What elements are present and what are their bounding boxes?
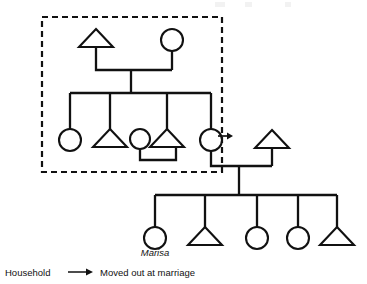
legend-household-label: Household	[5, 267, 50, 278]
symbol-female-g2-son-1-wife	[130, 129, 150, 149]
symbol-male-g2-daughter-2-husband	[255, 130, 289, 148]
symbol-male-g3-child-5	[320, 227, 354, 245]
scan-artifact	[215, 2, 225, 7]
symbol-male-g1-husband	[79, 29, 113, 47]
marriage-link-gen1	[96, 47, 172, 70]
symbol-female-g3-child-3	[246, 227, 268, 249]
marriage-link-gen2-daughter2	[211, 151, 272, 166]
kinship-diagram: Marisa Household Moved out at marriage	[0, 0, 367, 284]
symbol-female-g2-daughter-2	[200, 129, 222, 151]
legend-moved-out-label: Moved out at marriage	[100, 267, 195, 278]
scan-artifact	[245, 2, 252, 7]
kinship-chart-canvas: Marisa Household Moved out at marriage	[0, 0, 367, 284]
symbol-female-g3-child-4	[287, 227, 309, 249]
marriage-link-g2-son-1	[140, 147, 176, 160]
ego-label-marisa: Marisa	[141, 247, 170, 258]
symbol-male-g3-child-2	[188, 227, 222, 245]
legend-right-arrow-icon	[86, 268, 93, 275]
scan-artifact	[285, 2, 291, 7]
symbol-female-g2-daughter-1	[59, 129, 81, 151]
symbol-female-g1-wife	[161, 29, 183, 51]
symbol-male-g2-son-2	[150, 129, 184, 147]
symbol-female-g3-child-1-marisa	[144, 227, 166, 249]
right-arrow-icon	[227, 133, 233, 140]
symbol-male-g2-son-1	[93, 129, 127, 147]
